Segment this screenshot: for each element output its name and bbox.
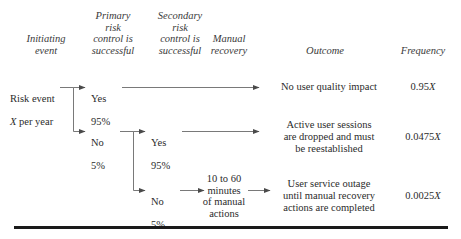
branch-answer: Yes [151, 137, 166, 148]
frequency-no-impact: 0.95X [392, 81, 454, 93]
event-tree-figure: Initiating event Primary risk control is… [0, 0, 461, 239]
branch-node-secondary-no: No 5% [151, 184, 191, 230]
branch-node-primary-no: No 5% [91, 125, 131, 171]
frequency-service-outage: 0.0025X [392, 190, 454, 202]
branch-answer: No [91, 137, 104, 148]
frequency-unit: X [434, 131, 440, 142]
frequency-value: 0.95 [411, 81, 429, 92]
outcome-no-impact: No user quality impact [264, 81, 394, 93]
branch-probability: 5% [91, 160, 105, 171]
initiating-event-rate-text: per year [16, 116, 53, 127]
frequency-unit: X [429, 81, 435, 92]
frequency-unit: X [434, 190, 440, 201]
branch-node-primary-yes: Yes 95% [91, 81, 131, 127]
branch-node-secondary-yes: Yes 95% [151, 125, 191, 171]
frequency-value: 0.0475 [405, 131, 434, 142]
branch-answer: No [151, 196, 164, 207]
initiating-event-node: Risk event X per year [10, 81, 70, 127]
bottom-rule [14, 226, 448, 229]
frequency-value: 0.0025 [405, 190, 434, 201]
branch-answer: Yes [91, 93, 106, 104]
outcome-service-outage: User service outage until manual recover… [264, 178, 394, 214]
manual-recovery-node: 10 to 60 minutes of manual actions [196, 173, 252, 219]
frequency-sessions-dropped: 0.0475X [392, 131, 454, 143]
outcome-sessions-dropped: Active user sessions are dropped and mus… [264, 119, 394, 155]
initiating-event-line1: Risk event [10, 93, 55, 104]
branch-probability: 95% [151, 160, 170, 171]
